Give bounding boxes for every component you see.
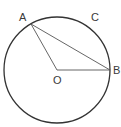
- label-a: A: [19, 11, 27, 23]
- segment-oa: [31, 24, 57, 70]
- circle-diagram: A C O B: [0, 0, 121, 127]
- label-b: B: [113, 64, 120, 76]
- label-o: O: [53, 74, 62, 86]
- segment-ab: [31, 24, 110, 70]
- label-c: C: [91, 11, 99, 23]
